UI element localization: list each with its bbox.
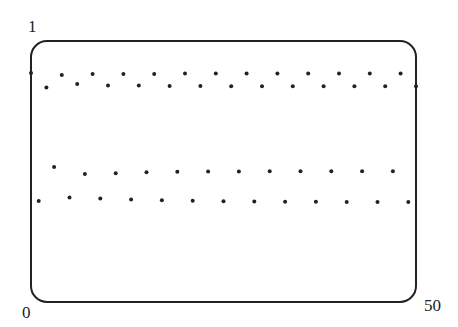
data-point: [129, 197, 133, 201]
data-point: [268, 169, 272, 173]
data-point: [345, 200, 349, 204]
data-point: [198, 84, 202, 88]
data-point: [314, 200, 318, 204]
data-point: [83, 172, 87, 176]
data-point: [329, 169, 333, 173]
data-point: [98, 196, 102, 200]
data-point: [252, 200, 256, 204]
data-point: [29, 71, 33, 75]
data-point: [237, 170, 241, 174]
data-point: [260, 84, 264, 88]
data-point: [245, 72, 249, 76]
data-point: [352, 84, 356, 88]
data-point: [376, 200, 380, 204]
data-point: [145, 170, 149, 174]
data-point: [75, 82, 79, 86]
data-point: [306, 72, 310, 76]
data-point: [160, 198, 164, 202]
data-point: [152, 72, 156, 76]
data-point: [283, 200, 287, 204]
data-point: [106, 84, 110, 88]
data-point: [121, 72, 125, 76]
data-point: [137, 83, 141, 87]
data-point: [37, 199, 41, 203]
data-point: [44, 86, 48, 90]
data-point: [175, 170, 179, 174]
data-point: [191, 199, 195, 203]
chart-canvas: [0, 0, 458, 327]
data-point: [183, 72, 187, 76]
data-points: [29, 71, 418, 204]
data-point: [114, 171, 118, 175]
data-point: [60, 73, 64, 77]
data-point: [414, 84, 418, 88]
data-point: [391, 169, 395, 173]
data-point: [68, 196, 72, 200]
data-point: [337, 72, 341, 76]
data-point: [299, 169, 303, 173]
data-point: [222, 199, 226, 203]
data-point: [291, 84, 295, 88]
data-point: [383, 84, 387, 88]
y-axis-min-label: 0: [22, 304, 31, 321]
data-point: [322, 84, 326, 88]
data-point: [206, 170, 210, 174]
y-axis-max-label: 1: [28, 18, 37, 35]
data-point: [399, 72, 403, 76]
x-axis-max-label: 50: [424, 297, 441, 314]
data-point: [168, 84, 172, 88]
data-point: [214, 72, 218, 76]
data-point: [52, 165, 56, 169]
plot-frame: [31, 41, 416, 302]
data-point: [368, 72, 372, 76]
data-point: [229, 84, 233, 88]
data-point: [275, 72, 279, 76]
data-point: [360, 169, 364, 173]
data-point: [406, 200, 410, 204]
data-point: [91, 72, 95, 76]
